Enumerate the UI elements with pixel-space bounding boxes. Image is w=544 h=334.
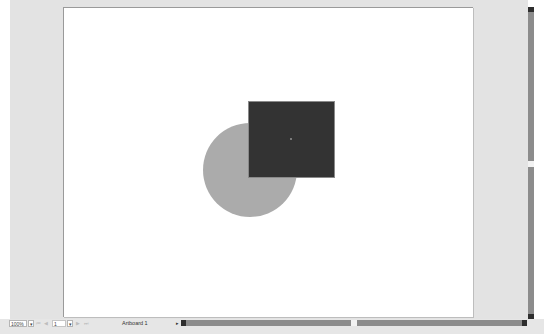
scroll-left-arrow-icon[interactable] bbox=[181, 320, 186, 326]
artboard-number-field[interactable]: 1 bbox=[52, 320, 66, 327]
status-bar: 100% ▾ ⏮ ◀ 1 ▾ ▶ ⏭ Artboard 1 ▸ bbox=[0, 319, 544, 334]
first-artboard-icon[interactable]: ⏮ bbox=[35, 320, 41, 327]
horizontal-scrollbar[interactable] bbox=[181, 320, 527, 326]
status-label: Artboard 1 bbox=[122, 320, 172, 327]
horizontal-scroll-thumb[interactable] bbox=[351, 320, 357, 326]
next-artboard-icon[interactable]: ▶ bbox=[75, 320, 81, 327]
artboard-dropdown-icon[interactable]: ▾ bbox=[67, 320, 73, 327]
vertical-scrollbar[interactable] bbox=[528, 7, 534, 319]
scroll-right-arrow-icon[interactable] bbox=[522, 320, 527, 326]
status-menu-icon[interactable]: ▸ bbox=[174, 320, 180, 327]
zoom-level-field[interactable]: 100% bbox=[9, 320, 27, 327]
scroll-up-arrow-icon[interactable] bbox=[528, 7, 534, 12]
zoom-dropdown-icon[interactable]: ▾ bbox=[28, 320, 34, 327]
vertical-scroll-thumb[interactable] bbox=[528, 161, 534, 167]
last-artboard-icon[interactable]: ⏭ bbox=[83, 320, 89, 327]
selection-center-point bbox=[290, 138, 292, 140]
previous-artboard-icon[interactable]: ◀ bbox=[43, 320, 49, 327]
